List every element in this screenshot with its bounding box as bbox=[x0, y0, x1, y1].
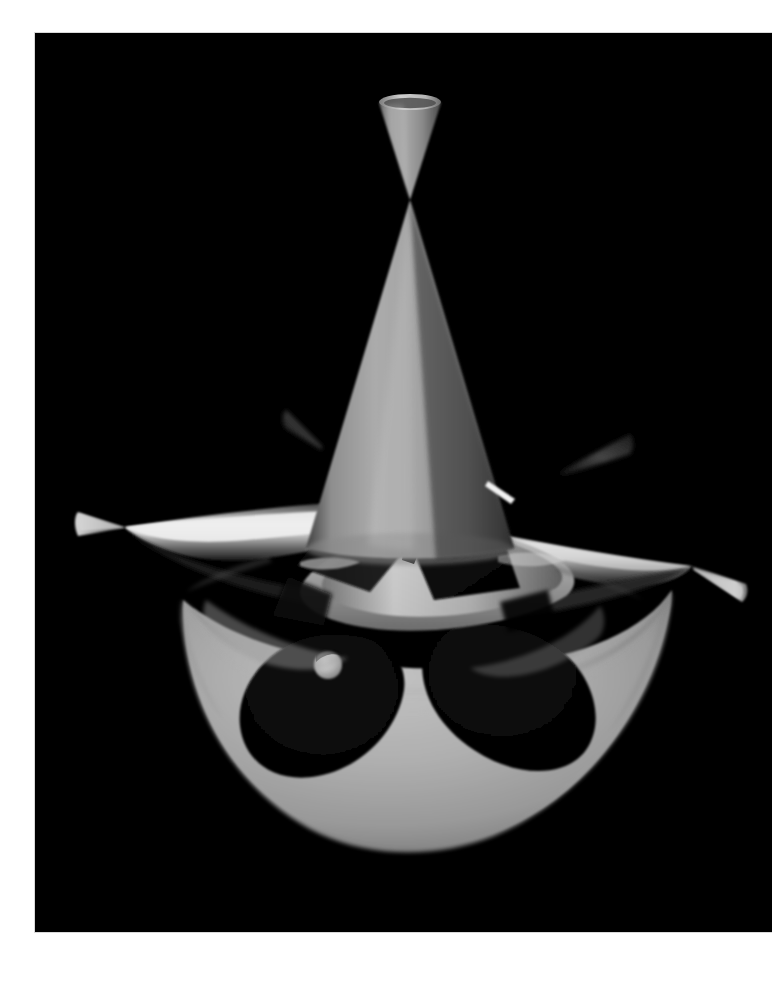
page-canvas bbox=[0, 0, 772, 981]
panel-edge-bottom bbox=[34, 932, 772, 933]
algebraic-surface-render bbox=[35, 33, 772, 932]
figure-panel bbox=[35, 33, 772, 932]
